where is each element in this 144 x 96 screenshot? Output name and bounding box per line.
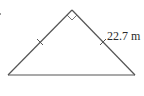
triangle-diagram: 22.7 m (0, 0, 144, 96)
side-length-label: 22.7 m (107, 29, 141, 43)
corner-speck (0, 13, 1, 15)
right-angle-marker (67, 15, 77, 20)
